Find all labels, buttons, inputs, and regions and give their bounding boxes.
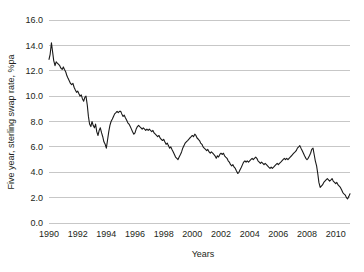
x-axis-tick-label: 1990 <box>39 229 59 239</box>
gridlines <box>49 20 350 223</box>
y-axis-tick-label: 12.0 <box>25 66 43 76</box>
x-axis-tick-label: 1992 <box>68 229 88 239</box>
x-axis-title: Years <box>192 249 215 259</box>
y-axis-title: Five year, sterling swap rate, %pa <box>6 54 16 189</box>
x-axis-tick-label: 2000 <box>182 229 202 239</box>
x-axis-tick-labels: 1990199219941996199820002002200420062008… <box>39 229 346 239</box>
x-axis-tick-label: 2008 <box>297 229 317 239</box>
data-series-group <box>49 43 350 199</box>
chart-plot-area: 0.02.04.06.08.010.012.014.016.0 19901992… <box>0 0 364 272</box>
y-axis-tick-label: 2.0 <box>30 193 43 203</box>
x-axis-tick-label: 1994 <box>96 229 116 239</box>
y-axis-tick-label: 0.0 <box>30 218 43 228</box>
y-axis-tick-labels: 0.02.04.06.08.010.012.014.016.0 <box>25 15 43 228</box>
data-series-line <box>49 43 350 199</box>
y-axis-tick-label: 8.0 <box>30 117 43 127</box>
x-axis-tick-label: 2004 <box>240 229 260 239</box>
y-axis-tick-label: 14.0 <box>25 41 43 51</box>
y-axis-tick-label: 4.0 <box>30 167 43 177</box>
x-axis-tick-label: 2010 <box>326 229 346 239</box>
chart-figure: 0.02.04.06.08.010.012.014.016.0 19901992… <box>0 0 364 272</box>
y-axis-tick-label: 6.0 <box>30 142 43 152</box>
y-axis-tick-label: 16.0 <box>25 15 43 25</box>
y-axis-tick-label: 10.0 <box>25 91 43 101</box>
x-axis-tick-label: 1996 <box>125 229 145 239</box>
x-axis-tick-label: 2006 <box>268 229 288 239</box>
x-axis-tick-label: 1998 <box>154 229 174 239</box>
x-axis-tick-label: 2002 <box>211 229 231 239</box>
